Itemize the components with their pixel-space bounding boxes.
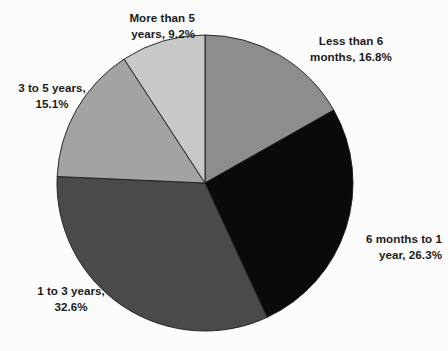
slice-label-1-to-3-years-line2: 32.6%: [16, 299, 126, 315]
slice-label-3-to-5-years: 3 to 5 years, 15.1%: [2, 80, 102, 111]
slice-label-more-than-5-years-line1: More than 5: [91, 10, 195, 26]
slice-label-6-months-to-1-year-line1: 6 months to 1: [330, 231, 442, 247]
slice-label-1-to-3-years-line1: 1 to 3 years,: [16, 283, 126, 299]
slice-label-6-months-to-1-year-line2: year, 26.3%: [330, 247, 442, 263]
slice-label-6-months-to-1-year: 6 months to 1 year, 26.3%: [330, 231, 442, 262]
slice-label-more-than-5-years: More than 5 years, 9.2%: [91, 10, 195, 41]
slice-label-less-than-6-months-line1: Less than 6: [292, 33, 410, 49]
pie-chart: More than 5 years, 9.2% Less than 6 mont…: [0, 0, 448, 351]
slice-label-more-than-5-years-line2: years, 9.2%: [91, 26, 195, 42]
slice-label-1-to-3-years: 1 to 3 years, 32.6%: [16, 283, 126, 314]
slice-label-less-than-6-months: Less than 6 months, 16.8%: [292, 33, 410, 64]
slice-label-3-to-5-years-line2: 15.1%: [2, 96, 102, 112]
slice-label-less-than-6-months-line2: months, 16.8%: [292, 49, 410, 65]
slice-label-3-to-5-years-line1: 3 to 5 years,: [2, 80, 102, 96]
